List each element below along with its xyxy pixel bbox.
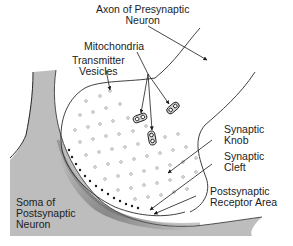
label-soma: Soma of Postsynaptic Neuron <box>16 197 76 230</box>
label-axon: Axon of Presynaptic Neuron <box>96 4 189 26</box>
label-synaptic-knob-line2: Knob <box>224 135 264 146</box>
label-receptor-area-line2: Receptor Area <box>210 197 277 208</box>
label-mitochondria: Mitochondria <box>84 41 144 52</box>
label-synaptic-knob: Synaptic Knob <box>224 124 264 146</box>
label-synaptic-cleft: Synaptic Cleft <box>224 151 264 173</box>
label-axon-line2: Neuron <box>96 15 189 26</box>
label-receptor-area: Postsynaptic Receptor Area <box>210 186 277 208</box>
label-vesicles-line2: Vesicles <box>72 66 125 77</box>
label-vesicles: Transmitter Vesicles <box>72 55 125 77</box>
synapse-diagram: Axon of Presynaptic Neuron Mitochondria … <box>0 0 293 246</box>
label-soma-line3: Neuron <box>16 219 76 230</box>
mitochondria <box>132 101 180 146</box>
label-synaptic-cleft-line2: Cleft <box>224 162 264 173</box>
